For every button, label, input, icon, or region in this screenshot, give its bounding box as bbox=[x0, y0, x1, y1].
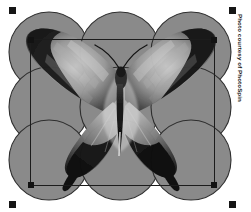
selection-handle-bottom-left[interactable] bbox=[28, 182, 34, 188]
photo-credit-text: Photo courtesy of PhotoSpin bbox=[237, 14, 243, 102]
selection-handle-top-right[interactable] bbox=[211, 37, 217, 43]
selection-bounding-box[interactable] bbox=[30, 39, 215, 186]
selection-handle-bottom-right[interactable] bbox=[211, 182, 217, 188]
crop-marker-bottom-left[interactable] bbox=[9, 201, 16, 208]
image-canvas[interactable]: Photo courtesy of PhotoSpin bbox=[0, 0, 251, 212]
photo-credit: Photo courtesy of PhotoSpin bbox=[233, 14, 247, 134]
crop-marker-top-right[interactable] bbox=[229, 7, 236, 14]
crop-marker-top-left[interactable] bbox=[9, 7, 16, 14]
selection-handle-top-left[interactable] bbox=[28, 37, 34, 43]
crop-marker-bottom-right[interactable] bbox=[229, 201, 236, 208]
